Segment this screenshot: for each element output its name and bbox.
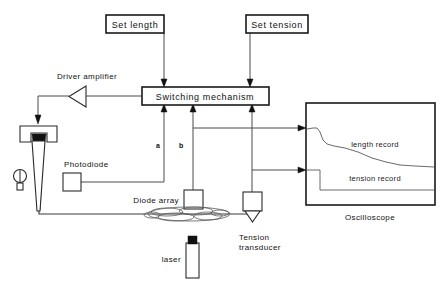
tension-transducer-label-line2: transducer (239, 243, 281, 252)
laser-block[interactable]: laser (162, 236, 199, 278)
set-tension-label: Set tension (251, 20, 303, 30)
laser-emitter-cap (188, 236, 197, 244)
arrowhead-osc-length (298, 125, 306, 131)
length-record-label: length record (351, 140, 399, 149)
photodiode-label: Photodiode (64, 160, 109, 169)
tension-transducer-box[interactable] (243, 192, 262, 211)
photodiode-box[interactable] (63, 173, 81, 191)
oscilloscope-block[interactable]: length record tension record Oscilloscop… (306, 103, 435, 222)
tension-transducer-label-line1: Tension (239, 233, 269, 242)
wire-amplifier-to-lever (38, 96, 69, 121)
diode-array-block[interactable]: Diode array (133, 190, 203, 209)
diagram-canvas: Set length Set tension Switching mechani… (0, 0, 446, 293)
photodiode-block[interactable]: Photodiode (63, 160, 109, 191)
node-label-a: a (156, 142, 160, 149)
lamp-base-icon (17, 183, 23, 190)
lever-clamp-assembly (20, 126, 57, 211)
tension-transducer-tip (245, 211, 260, 222)
apparatus-diagram: Set length Set tension Switching mechani… (0, 0, 446, 293)
light-source-icon (14, 170, 27, 191)
set-tension-block[interactable]: Set tension (246, 15, 308, 33)
arrowhead-osc-tension (298, 167, 306, 173)
wire-photodiode-to-switching (81, 107, 164, 182)
fiber-strand-6 (211, 210, 229, 216)
set-length-label: Set length (112, 20, 159, 30)
set-length-block[interactable]: Set length (106, 15, 164, 33)
lever-arm-outline (32, 141, 45, 211)
switching-mechanism-block[interactable]: Switching mechanism (142, 87, 269, 105)
tension-transducer-block[interactable]: Tension transducer (239, 192, 281, 252)
arrowhead-setlength (161, 79, 167, 87)
driver-amplifier-label: Driver amplifier (57, 72, 117, 81)
arrowhead-lever (35, 115, 41, 124)
driver-amplifier-triangle[interactable] (69, 86, 86, 107)
node-label-b: b (179, 142, 183, 149)
diode-array-label: Diode array (133, 196, 179, 205)
laser-body[interactable] (186, 243, 199, 278)
diode-array-box[interactable] (184, 190, 203, 209)
switching-mechanism-label: Switching mechanism (156, 92, 254, 102)
arrowhead-settension (247, 79, 253, 87)
driver-amplifier-block[interactable]: Driver amplifier (57, 72, 117, 107)
laser-label: laser (162, 255, 181, 264)
oscilloscope-label: Oscilloscope (345, 213, 395, 222)
tension-record-label: tension record (349, 174, 401, 183)
